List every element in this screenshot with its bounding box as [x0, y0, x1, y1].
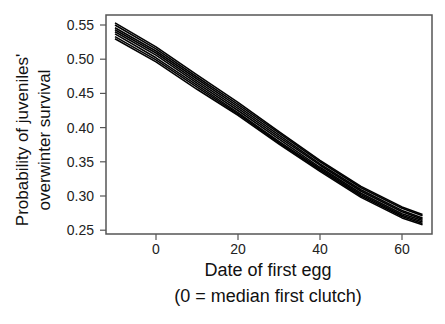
x-tick-label: 40: [312, 241, 328, 257]
line-bundle: [115, 23, 423, 225]
x-axis-title-line-2: (0 = median first clutch): [174, 286, 362, 306]
y-axis: 0.250.300.350.400.450.500.55: [67, 17, 106, 238]
x-tick-label: 20: [230, 241, 246, 257]
x-axis-title: Date of first egg (0 = median first clut…: [174, 260, 362, 306]
y-tick-label: 0.25: [67, 222, 94, 238]
x-tick-label: 60: [394, 241, 410, 257]
y-axis-title-line-1: Probability of juveniles': [13, 54, 32, 226]
x-tick-label: 0: [152, 241, 160, 257]
y-axis-title-line-2: overwinter survival: [35, 70, 54, 211]
x-axis-title-line-1: Date of first egg: [204, 260, 331, 280]
y-tick-label: 0.50: [67, 51, 94, 67]
y-axis-title: Probability of juveniles' overwinter sur…: [13, 54, 54, 226]
chart: Probability of juveniles' overwinter sur…: [0, 0, 445, 324]
y-tick-label: 0.45: [67, 85, 94, 101]
y-tick-label: 0.55: [67, 17, 94, 33]
x-axis: 0204060: [152, 234, 410, 257]
y-tick-label: 0.30: [67, 188, 94, 204]
y-tick-label: 0.40: [67, 120, 94, 136]
y-tick-label: 0.35: [67, 154, 94, 170]
